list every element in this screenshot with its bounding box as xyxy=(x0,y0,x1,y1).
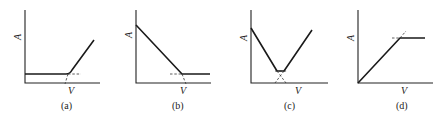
panel-b-x-label: V xyxy=(180,85,188,96)
panel-c-dash-2 xyxy=(275,71,284,83)
panel-a-caption: (a) xyxy=(61,100,72,112)
panel-b-caption: (b) xyxy=(172,100,184,112)
panel-b-axes xyxy=(136,10,211,83)
panel-d-dash-2 xyxy=(400,31,406,38)
panel-a: A V (a) xyxy=(12,10,100,112)
panel-c-curve xyxy=(251,28,312,71)
panel-c-caption: (c) xyxy=(284,100,295,112)
panel-a-x-label: V xyxy=(68,85,76,96)
panel-d-x-label: V xyxy=(401,85,409,96)
panel-d-caption: (d) xyxy=(396,100,408,112)
panel-a-y-label: A xyxy=(12,33,23,41)
panel-c-y-label: A xyxy=(238,34,249,42)
figure-canvas: A V (a) A V (b) A V (c) A V (d) xyxy=(0,0,440,125)
panel-d-y-label: A xyxy=(345,34,356,42)
panel-b-y-label: A xyxy=(123,31,134,39)
panel-c: A V (c) xyxy=(238,10,328,112)
panel-c-x-label: V xyxy=(295,85,303,96)
panel-d-curve xyxy=(358,38,425,83)
panel-d: A V (d) xyxy=(345,10,433,112)
panel-a-curve xyxy=(25,40,94,74)
panel-c-dash-1 xyxy=(277,71,286,83)
panel-b: A V (b) xyxy=(123,10,211,112)
panel-b-curve xyxy=(136,25,210,74)
